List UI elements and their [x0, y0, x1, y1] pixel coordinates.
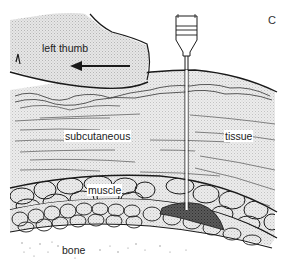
label-subcutaneous: subcutaneous [64, 130, 131, 142]
bone-region [21, 241, 186, 258]
label-tissue: tissue [224, 130, 253, 142]
panel-letter: C [268, 14, 276, 26]
injection-diagram [0, 0, 301, 272]
label-bone: bone [61, 244, 86, 256]
label-left-thumb: left thumb [41, 42, 89, 54]
label-muscle: muscle [87, 184, 122, 196]
